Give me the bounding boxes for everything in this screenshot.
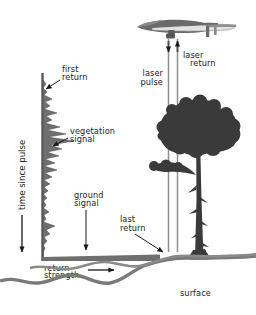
conifer-tree-icon — [149, 95, 241, 260]
leader-line-icon — [46, 80, 60, 89]
label-laser-pulse: laser pulse — [141, 68, 164, 87]
laser-pulse-line2: pulse — [141, 77, 163, 87]
time-axis-label-text: time since pulse — [17, 140, 27, 210]
vegetation-signal-line2: signal — [70, 134, 95, 144]
last-return-line2: return — [120, 223, 146, 233]
laser-return-line2: return — [190, 58, 216, 68]
first-return-line2: return — [62, 72, 88, 82]
strength-axis-wedge — [43, 255, 161, 262]
surface-label: surface — [180, 288, 211, 298]
annotation-last-return: last return — [120, 214, 163, 252]
label-laser-return: laser return — [183, 50, 216, 68]
ground-signal-line2: signal — [74, 198, 99, 208]
time-since-pulse-axis-label: time since pulse — [17, 140, 27, 252]
annotation-first-return: first return — [46, 64, 88, 89]
lidar-waveform-figure: time since pulse return strength first r… — [0, 0, 256, 315]
first-return-peak — [43, 80, 46, 88]
annotation-ground-signal: ground signal — [74, 190, 104, 250]
return-waveform-area — [43, 88, 74, 257]
airplane-icon — [137, 20, 236, 39]
diagram-canvas: time since pulse return strength first r… — [0, 0, 256, 315]
leader-line-icon — [135, 234, 163, 252]
